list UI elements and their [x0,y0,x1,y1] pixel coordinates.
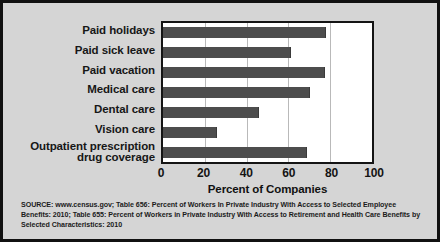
category-label-paid-vacation: Paid vacation [82,65,155,77]
bar-row [163,83,372,103]
category-row: Paid vacation [7,61,159,81]
bar-medical-care [163,87,310,98]
category-row: Paid holidays [7,21,159,41]
category-label-paid-holidays: Paid holidays [82,25,155,37]
bar-row [163,122,372,142]
category-axis: Paid holidays Paid sick leave Paid vacat… [7,21,159,164]
bar-row [163,43,372,63]
category-label-dental-care: Dental care [94,104,155,116]
x-axis-title: Percent of Companies [161,183,374,195]
xtick-100: 100 [364,166,383,180]
bar-series [163,23,372,162]
bar-paid-holidays [163,27,326,38]
source-note: SOURCE: www.census.gov; Table 656: Perce… [21,200,421,230]
plot-area [161,21,374,164]
chart-figure: Paid holidays Paid sick leave Paid vacat… [0,0,440,242]
xtick-20: 20 [197,166,210,180]
category-label-vision-care: Vision care [95,124,155,136]
x-axis: 0 20 40 60 80 100 [161,166,374,182]
category-row: Dental care [7,100,159,120]
xtick-0: 0 [158,166,164,180]
plot-inner [163,23,372,162]
bar-paid-sick-leave [163,47,291,58]
category-label-medical-care: Medical care [87,84,155,96]
bar-row [163,102,372,122]
xtick-80: 80 [325,166,338,180]
category-row: Medical care [7,80,159,100]
bar-row [163,63,372,83]
category-row: Outpatient prescription drug coverage [7,140,159,164]
category-row: Vision care [7,120,159,140]
category-label-outpatient-prescription-drug-coverage: Outpatient prescription drug coverage [30,141,155,164]
bar-dental-care [163,107,259,118]
bar-row [163,142,372,162]
bar-chart: Paid holidays Paid sick leave Paid vacat… [3,3,437,197]
bar-vision-care [163,127,217,138]
bar-outpatient-prescription-drug-coverage [163,147,307,158]
bar-paid-vacation [163,67,325,78]
xtick-40: 40 [240,166,253,180]
bar-row [163,23,372,43]
category-label-paid-sick-leave: Paid sick leave [75,45,155,57]
xtick-60: 60 [282,166,295,180]
category-row: Paid sick leave [7,41,159,61]
